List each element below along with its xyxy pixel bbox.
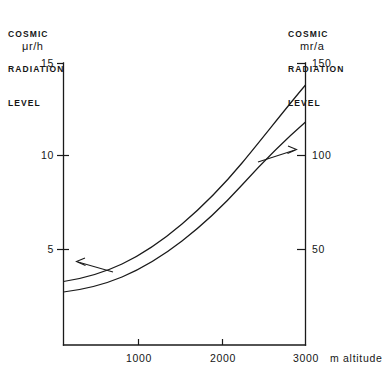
upper-curve-line (64, 85, 306, 282)
right-tick-label-150: 150 (312, 57, 348, 69)
x-tick-label-1000: 1000 (113, 352, 165, 364)
x-axis-caption: m altitude (330, 352, 383, 364)
left-tick-label-15: 15 (24, 57, 54, 69)
right-axis-ticks (297, 64, 306, 250)
x-tick-label-2000: 2000 (197, 352, 249, 364)
left-arrow-head (77, 258, 86, 266)
right-arrow-leader (258, 150, 295, 162)
left-tick-label-10: 10 (24, 149, 54, 161)
right-tick-label-100: 100 (312, 149, 348, 161)
right-arrow-head (288, 146, 297, 154)
right-tick-label-50: 50 (312, 243, 348, 255)
x-axis-ticks (139, 339, 223, 345)
x-tick-label-3000: 3000 (280, 352, 332, 364)
lower-curve-line (64, 122, 306, 292)
axes-group (64, 63, 306, 345)
left-arrow-leader (78, 262, 113, 272)
left-arrow-annotation (77, 258, 114, 272)
left-tick-label-5: 5 (24, 243, 54, 255)
